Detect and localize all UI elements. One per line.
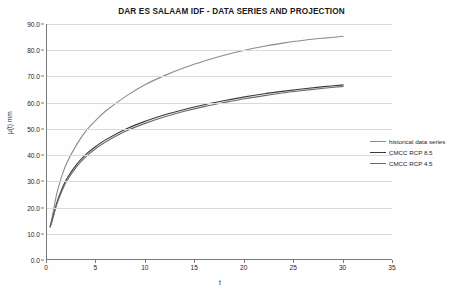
legend-item[interactable]: historical data series	[370, 136, 462, 147]
x-axis-ticks: 05101520253035	[46, 260, 392, 276]
x-tick-label: 35	[388, 264, 395, 271]
gridline	[47, 155, 392, 156]
gridline	[47, 76, 392, 77]
gridline	[47, 103, 392, 104]
y-tick-mark	[41, 50, 44, 51]
plot-area	[46, 24, 392, 260]
series-lines	[47, 24, 393, 260]
y-tick-mark	[41, 207, 44, 208]
y-tick-mark	[41, 102, 44, 103]
series-line	[50, 36, 344, 227]
y-tick-label: 80.0	[27, 47, 40, 54]
y-tick-label: 60.0	[27, 99, 40, 106]
legend-item[interactable]: CMCC RCP 4.5	[370, 158, 462, 169]
y-tick-label: 10.0	[27, 230, 40, 237]
gridline	[47, 208, 392, 209]
y-tick-mark	[41, 128, 44, 129]
gridline	[47, 234, 392, 235]
x-tick-mark	[293, 260, 294, 263]
y-tick-mark	[41, 260, 44, 261]
y-tick-label: 50.0	[27, 125, 40, 132]
legend-swatch-icon	[370, 141, 386, 143]
x-tick-label: 25	[289, 264, 296, 271]
x-tick-mark	[194, 260, 195, 263]
y-tick-mark	[41, 76, 44, 77]
x-tick-label: 10	[141, 264, 148, 271]
y-tick-label: 40.0	[27, 152, 40, 159]
x-tick-mark	[392, 260, 393, 263]
y-tick-mark	[41, 24, 44, 25]
legend-swatch-icon	[370, 163, 386, 165]
legend-label: CMCC RCP 4.5	[389, 160, 433, 167]
gridline	[47, 24, 392, 25]
gridline	[47, 181, 392, 182]
series-line	[50, 86, 344, 227]
y-tick-label: 90.0	[27, 21, 40, 28]
gridline	[47, 129, 392, 130]
x-axis-label: t	[0, 279, 440, 286]
y-tick-mark	[41, 181, 44, 182]
y-axis-ticks: 0.010.020.030.040.050.060.070.080.090.0	[0, 24, 44, 260]
x-tick-mark	[46, 260, 47, 263]
legend-label: historical data series	[389, 138, 445, 145]
x-tick-label: 5	[94, 264, 98, 271]
chart-title: DAR ES SALAAM IDF - DATA SERIES AND PROJ…	[0, 7, 463, 16]
legend-swatch-icon	[370, 152, 386, 154]
x-tick-label: 20	[240, 264, 247, 271]
x-tick-mark	[145, 260, 146, 263]
legend-item[interactable]: CMCC RCP 8.5	[370, 147, 462, 158]
chart-container: DAR ES SALAAM IDF - DATA SERIES AND PROJ…	[0, 0, 463, 303]
y-tick-label: 70.0	[27, 73, 40, 80]
y-tick-label: 30.0	[27, 178, 40, 185]
x-tick-mark	[343, 260, 344, 263]
gridline	[47, 50, 392, 51]
y-tick-label: 20.0	[27, 204, 40, 211]
y-tick-mark	[41, 155, 44, 156]
legend-label: CMCC RCP 8.5	[389, 149, 433, 156]
y-tick-label: 0.0	[31, 257, 40, 264]
legend: historical data seriesCMCC RCP 8.5CMCC R…	[370, 136, 462, 169]
x-tick-mark	[244, 260, 245, 263]
x-tick-label: 0	[44, 264, 48, 271]
x-tick-label: 30	[339, 264, 346, 271]
x-tick-mark	[95, 260, 96, 263]
y-tick-mark	[41, 233, 44, 234]
x-tick-label: 15	[191, 264, 198, 271]
